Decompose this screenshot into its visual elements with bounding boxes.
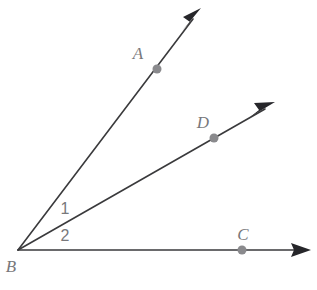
ray-ba-arrowhead xyxy=(182,8,201,31)
ray-bd-arrowhead xyxy=(250,102,275,117)
point-d-label: D xyxy=(196,113,210,132)
ray-ba xyxy=(18,8,201,250)
angle-2-label: 2 xyxy=(61,227,70,244)
ray-bd-line xyxy=(18,109,265,250)
ray-bc-arrowhead xyxy=(291,243,311,257)
ray-ba-line xyxy=(18,19,193,250)
point-c-dot xyxy=(238,246,247,255)
geometry-diagram: A D C B 1 2 xyxy=(0,0,317,290)
point-d: D xyxy=(196,113,219,143)
vertex-b-label: B xyxy=(6,257,17,276)
ray-bc xyxy=(18,243,311,257)
point-d-dot xyxy=(210,134,219,143)
vertex-b: B xyxy=(6,257,17,276)
point-a-label: A xyxy=(132,44,144,63)
angle-1-label: 1 xyxy=(61,200,70,217)
point-a: A xyxy=(132,44,162,74)
point-a-dot xyxy=(153,65,162,74)
point-c-label: C xyxy=(237,225,249,244)
